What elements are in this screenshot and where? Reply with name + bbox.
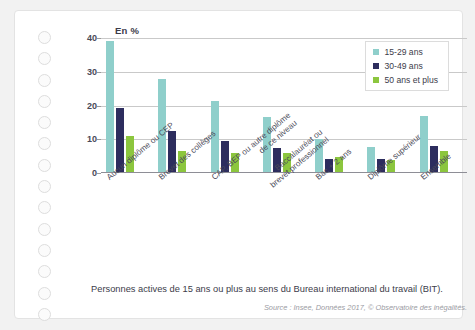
y-tick-label: 10 [87,134,97,144]
punch-hole [38,308,51,321]
punch-hole-strip [33,31,55,321]
legend-item[interactable]: 15-29 ans [373,47,438,57]
punch-hole [38,265,51,278]
punch-hole [38,223,51,236]
chart-container: En % 010203040 Aucun diplôme ou CEPBreve… [67,25,471,325]
legend-label: 50 ans et plus [384,75,438,85]
punch-hole [38,31,51,44]
legend-item[interactable]: 30-49 ans [373,61,438,71]
punch-hole [38,95,51,108]
y-tick-mark [97,173,101,174]
punch-hole [38,52,51,65]
punch-hole [38,159,51,172]
legend-swatch-icon [373,49,379,55]
y-axis-unit-label: En % [115,25,139,36]
page-background: En % 010203040 Aucun diplôme ou CEPBreve… [0,0,475,330]
notebook-sheet: En % 010203040 Aucun diplôme ou CEPBreve… [14,10,463,319]
y-tick-label: 30 [87,67,97,77]
x-axis-labels: Aucun diplôme ou CEPBrevet des collègesC… [101,175,467,285]
legend-label: 30-49 ans [384,61,422,71]
y-tick-label: 40 [87,33,97,43]
source-text: Source : Insee, Données 2017, © Observat… [67,302,467,313]
punch-hole [38,201,51,214]
footnote-text: Personnes actives de 15 ans ou plus au s… [67,283,467,296]
y-tick-label: 20 [87,101,97,111]
legend-label: 15-29 ans [384,47,422,57]
y-axis: 010203040 [67,38,101,173]
bar [420,116,428,173]
legend-swatch-icon [373,77,379,83]
punch-hole [38,180,51,193]
bar [106,41,114,173]
chart-legend: 15-29 ans30-49 ans50 ans et plus [365,41,449,91]
punch-hole [38,244,51,257]
punch-hole [38,287,51,300]
legend-swatch-icon [373,63,379,69]
legend-item[interactable]: 50 ans et plus [373,75,438,85]
punch-hole [38,116,51,129]
punch-hole [38,137,51,150]
punch-hole [38,74,51,87]
